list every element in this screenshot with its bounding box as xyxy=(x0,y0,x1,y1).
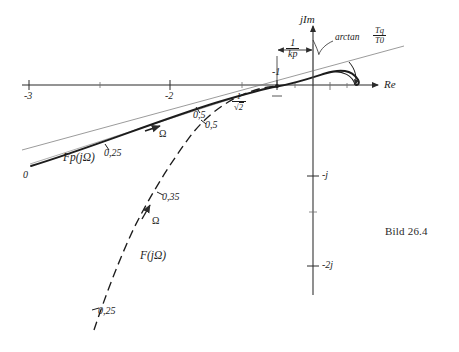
real-axis xyxy=(22,80,378,90)
arctan-fraction-denominator: T0 xyxy=(373,35,386,45)
arctan-fraction-numerator: Tq xyxy=(373,26,386,35)
nyquist-diagram: Re jIm -3 -2 -1 -j -2j 1 kp 1 √2 arctan … xyxy=(0,0,459,352)
real-tick-label-minus3: -3 xyxy=(24,91,32,101)
arctan-leader xyxy=(313,40,333,55)
crossing-fraction: 1 √2 xyxy=(232,92,246,111)
uncompensated-locus-curve xyxy=(92,86,277,330)
compensated-direction-label: Ω xyxy=(159,129,166,139)
gain-margin-fraction: 1 kp xyxy=(286,38,299,59)
real-tick-label-minus2: -2 xyxy=(165,91,173,101)
crossing-denominator: 2 xyxy=(239,102,244,112)
real-tick-label-minus1: -1 xyxy=(272,67,280,77)
compensated-point-label-025: 0,25 xyxy=(104,148,122,158)
uncompensated-point-label-05: 0,5 xyxy=(205,120,218,130)
compensated-point-label-0: 0 xyxy=(23,170,28,180)
uncompensated-locus-label: F(jΩ) xyxy=(140,250,166,262)
uncompensated-point-label-035: 0,35 xyxy=(162,192,180,202)
diagram-canvas xyxy=(0,0,459,352)
real-axis-label: Re xyxy=(384,79,396,90)
compensated-locus-label: Fp(jΩ) xyxy=(63,152,95,164)
arctan-label: arctan xyxy=(335,33,359,43)
compensated-point-label-05: 0,5 xyxy=(193,110,206,120)
imag-tick-label-minus-2j: -2j xyxy=(322,260,333,270)
figure-caption: Bild 26.4 xyxy=(385,226,428,237)
arctan-fraction: Tq T0 xyxy=(373,26,386,44)
uncompensated-point-label-025: 0,25 xyxy=(98,306,116,316)
asymptote-line xyxy=(22,46,404,150)
gain-margin-denominator: kp xyxy=(286,48,299,59)
uncompensated-direction-label: Ω xyxy=(152,216,159,226)
imag-tick-label-minus-j: -j xyxy=(322,170,328,180)
crossing-denominator-radical: √2 xyxy=(232,101,246,112)
crossing-numerator: 1 xyxy=(232,92,246,101)
gain-margin-numerator: 1 xyxy=(286,38,299,48)
imaginary-axis-label: jIm xyxy=(300,14,315,25)
